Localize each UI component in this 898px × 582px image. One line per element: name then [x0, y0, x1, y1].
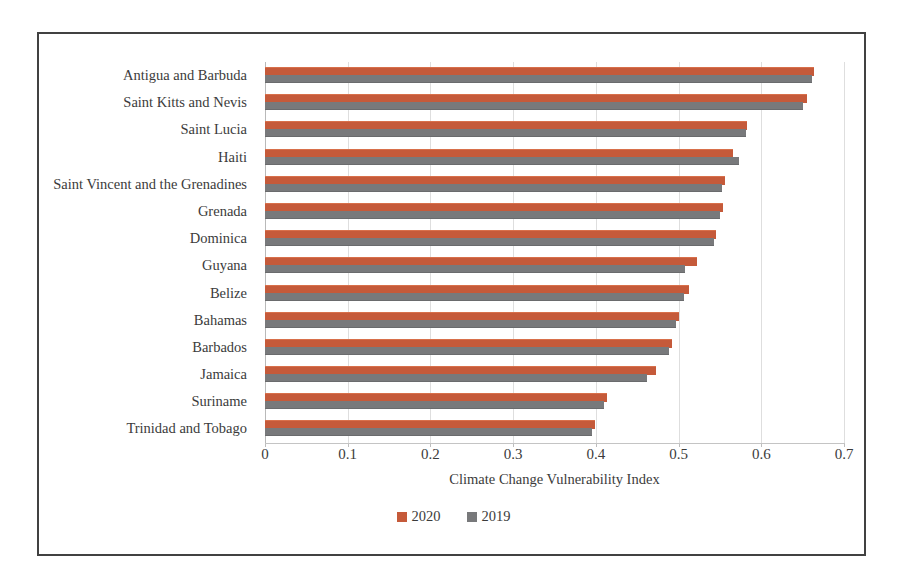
- y-axis-label: Jamaica: [39, 361, 255, 388]
- bar-group: [265, 280, 844, 307]
- bar-group: [265, 144, 844, 171]
- y-axis-category-labels: Antigua and BarbudaSaint Kitts and Nevis…: [39, 62, 255, 443]
- bar-group: [265, 225, 844, 252]
- legend-label: 2019: [482, 508, 511, 525]
- y-axis-label: Antigua and Barbuda: [39, 62, 255, 89]
- bar-2019-antigua-and-barbuda[interactable]: [265, 75, 812, 83]
- y-axis-label: Suriname: [39, 388, 255, 415]
- y-axis-label: Saint Lucia: [39, 116, 255, 143]
- x-tick-label: 0.5: [669, 446, 688, 463]
- x-tick-label: 0.4: [586, 446, 605, 463]
- bar-group: [265, 334, 844, 361]
- y-axis-label: Belize: [39, 280, 255, 307]
- x-gridline: [844, 62, 845, 443]
- legend-item-2019[interactable]: 2019: [467, 508, 511, 525]
- bar-2019-suriname[interactable]: [265, 401, 604, 409]
- chart-figure-frame: Antigua and BarbudaSaint Kitts and Nevis…: [37, 32, 866, 556]
- y-axis-label: Haiti: [39, 144, 255, 171]
- bar-group: [265, 415, 844, 442]
- bar-2019-saint-vincent-and-the-grenadines[interactable]: [265, 184, 722, 192]
- bar-2019-saint-kitts-and-nevis[interactable]: [265, 102, 803, 110]
- x-axis-title: Climate Change Vulnerability Index: [265, 471, 844, 488]
- y-axis-label: Barbados: [39, 334, 255, 361]
- bar-group: [265, 198, 844, 225]
- bar-group: [265, 89, 844, 116]
- bar-2019-barbados[interactable]: [265, 347, 669, 355]
- chart-legend: 20202019: [39, 508, 868, 525]
- x-tick-label: 0: [261, 446, 269, 463]
- y-axis-label: Bahamas: [39, 307, 255, 334]
- bar-chart: Antigua and BarbudaSaint Kitts and Nevis…: [39, 34, 868, 558]
- bar-group: [265, 307, 844, 334]
- legend-swatch-icon: [397, 512, 407, 522]
- legend-label: 2020: [412, 508, 441, 525]
- bar-group: [265, 361, 844, 388]
- bar-2019-bahamas[interactable]: [265, 320, 676, 328]
- bar-group: [265, 252, 844, 279]
- bar-group: [265, 62, 844, 89]
- x-tick-label: 0.1: [338, 446, 357, 463]
- bar-group: [265, 388, 844, 415]
- bar-2019-guyana[interactable]: [265, 265, 685, 273]
- bar-group: [265, 171, 844, 198]
- y-axis-label: Trinidad and Tobago: [39, 415, 255, 442]
- bar-2019-saint-lucia[interactable]: [265, 129, 746, 137]
- x-tick-label: 0.2: [421, 446, 440, 463]
- x-tick-label: 0.7: [835, 446, 854, 463]
- x-axis-tick-labels: 00.10.20.30.40.50.60.7: [265, 446, 844, 468]
- bar-2019-haiti[interactable]: [265, 157, 739, 165]
- y-axis-label: Grenada: [39, 198, 255, 225]
- bar-2019-trinidad-and-tobago[interactable]: [265, 428, 592, 436]
- x-axis-line: [265, 443, 845, 444]
- legend-swatch-icon: [467, 512, 477, 522]
- y-axis-label: Saint Vincent and the Grenadines: [39, 171, 255, 198]
- y-axis-label: Guyana: [39, 252, 255, 279]
- bar-2019-dominica[interactable]: [265, 238, 714, 246]
- x-tick-label: 0.6: [752, 446, 771, 463]
- bar-group: [265, 116, 844, 143]
- y-axis-label: Dominica: [39, 225, 255, 252]
- bar-2019-belize[interactable]: [265, 293, 684, 301]
- plot-area-bars: [265, 62, 844, 443]
- x-tick-label: 0.3: [504, 446, 523, 463]
- legend-item-2020[interactable]: 2020: [397, 508, 441, 525]
- bar-2019-grenada[interactable]: [265, 211, 720, 219]
- y-axis-label: Saint Kitts and Nevis: [39, 89, 255, 116]
- bar-2019-jamaica[interactable]: [265, 374, 647, 382]
